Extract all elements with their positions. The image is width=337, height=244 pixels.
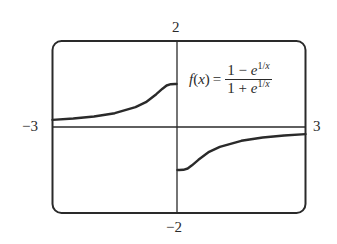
y-min-label: −2: [166, 220, 182, 235]
formula-lhs: f(x): [189, 71, 210, 88]
formula-equals: =: [213, 71, 221, 88]
formula-fraction: 1 − e1/x 1 + e1/x: [225, 62, 271, 96]
function-graph: [0, 0, 337, 244]
x-max-label: 3: [313, 119, 321, 134]
y-max-label: 2: [172, 20, 180, 35]
x-min-label: −3: [22, 119, 38, 134]
formula-denominator: 1 + e1/x: [225, 80, 271, 97]
function-formula: f(x) = 1 − e1/x 1 + e1/x: [187, 62, 274, 96]
curve-right-branch: [178, 134, 306, 170]
curve-left-branch: [53, 84, 177, 120]
